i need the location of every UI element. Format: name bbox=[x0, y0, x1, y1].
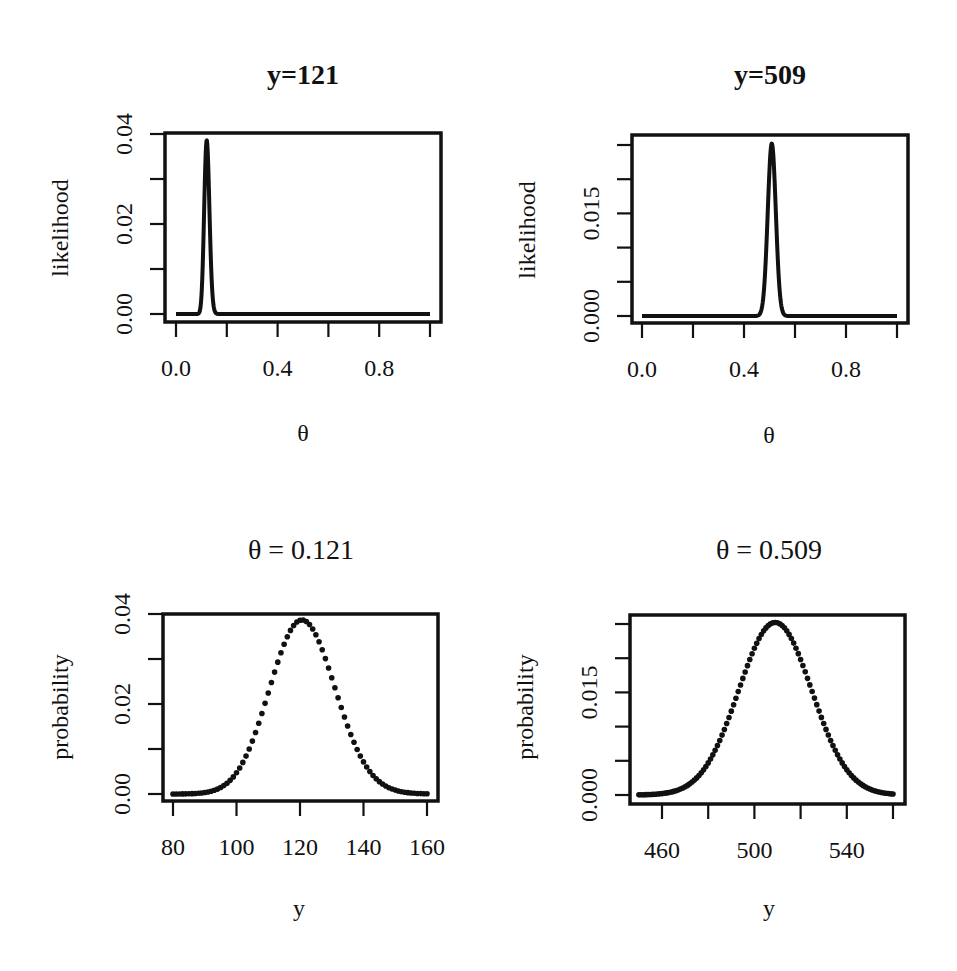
x-tick-label: 120 bbox=[282, 834, 318, 860]
data-point bbox=[278, 650, 284, 656]
y-axis: 0.0000.015 bbox=[578, 145, 632, 343]
x-tick-label: 0.4 bbox=[263, 355, 293, 381]
data-point bbox=[361, 759, 367, 765]
data-point bbox=[740, 676, 746, 682]
data-point bbox=[310, 626, 316, 632]
x-tick-label: 540 bbox=[829, 837, 865, 863]
data-point bbox=[332, 685, 338, 691]
data-point bbox=[354, 747, 360, 753]
x-axis-label: θ bbox=[297, 420, 309, 446]
data-point bbox=[316, 639, 322, 645]
data-series bbox=[636, 620, 896, 798]
data-point bbox=[329, 675, 335, 681]
y-axis-label: likelihood bbox=[514, 181, 540, 278]
plot-frame bbox=[630, 615, 905, 804]
data-point bbox=[281, 641, 287, 647]
data-point bbox=[323, 656, 329, 662]
data-point bbox=[800, 663, 806, 669]
data-series bbox=[176, 140, 430, 314]
x-axis: 80100120140160 bbox=[161, 801, 445, 860]
x-tick-label: 500 bbox=[736, 837, 772, 863]
data-point bbox=[342, 714, 348, 720]
data-point bbox=[731, 702, 737, 708]
data-point bbox=[313, 632, 319, 638]
data-point bbox=[345, 723, 351, 729]
data-point bbox=[812, 695, 818, 701]
data-point bbox=[240, 760, 246, 766]
data-point bbox=[262, 701, 268, 707]
figure: y=121 likelihood θ 0.000.020.040.00.40.8… bbox=[0, 0, 957, 971]
y-tick-label: 0.00 bbox=[111, 293, 137, 335]
x-tick-label: 160 bbox=[409, 834, 445, 860]
data-point bbox=[351, 740, 357, 746]
x-tick-label: 0.0 bbox=[161, 355, 191, 381]
data-series bbox=[642, 144, 897, 316]
data-point bbox=[802, 669, 808, 675]
data-point bbox=[791, 640, 797, 646]
data-point bbox=[814, 702, 820, 708]
y-axis-label: probability bbox=[512, 654, 538, 759]
data-point bbox=[830, 743, 836, 749]
x-tick-label: 0.0 bbox=[627, 356, 657, 382]
x-tick-label: 0.8 bbox=[364, 355, 394, 381]
data-point bbox=[826, 732, 832, 738]
data-point bbox=[724, 721, 730, 727]
data-point bbox=[819, 715, 825, 721]
data-point bbox=[250, 738, 256, 744]
data-point bbox=[338, 705, 344, 711]
y-tick-label: 0.02 bbox=[109, 683, 135, 725]
data-point bbox=[747, 657, 753, 663]
data-point bbox=[319, 647, 325, 653]
y-axis: 0.0000.015 bbox=[576, 624, 630, 822]
likelihood-curve bbox=[642, 144, 897, 316]
y-tick-label: 0.015 bbox=[578, 186, 604, 240]
panel-top-left: y=121 likelihood θ 0.000.020.040.00.40.8 bbox=[47, 59, 441, 446]
x-tick-label: 100 bbox=[219, 834, 255, 860]
data-point bbox=[752, 645, 758, 651]
data-point bbox=[735, 689, 741, 695]
y-axis-label: probability bbox=[47, 654, 73, 759]
data-point bbox=[798, 657, 804, 663]
data-point bbox=[348, 732, 354, 738]
x-axis-label: θ bbox=[763, 422, 775, 448]
data-point bbox=[275, 659, 281, 665]
data-point bbox=[795, 651, 801, 657]
data-point bbox=[742, 669, 748, 675]
data-point bbox=[335, 695, 341, 701]
data-point bbox=[253, 730, 259, 736]
y-tick-label: 0.015 bbox=[576, 665, 602, 719]
y-tick-label: 0.000 bbox=[578, 289, 604, 343]
data-point bbox=[272, 669, 278, 675]
y-tick-label: 0.04 bbox=[111, 113, 137, 155]
data-point bbox=[809, 689, 815, 695]
y-tick-label: 0.04 bbox=[109, 593, 135, 635]
x-axis-label: y bbox=[293, 895, 305, 921]
plot-area: 0.000.020.040.00.40.8 bbox=[111, 113, 441, 381]
plot-area: 0.0000.015460500540 bbox=[576, 615, 905, 863]
data-point bbox=[807, 682, 813, 688]
y-axis: 0.000.020.04 bbox=[109, 593, 163, 815]
data-point bbox=[733, 695, 739, 701]
panel-bottom-right: θ = 0.509 probability y 0.0000.015460500… bbox=[512, 534, 905, 921]
x-axis: 460500540 bbox=[644, 804, 893, 863]
data-point bbox=[793, 645, 799, 651]
data-point bbox=[816, 708, 822, 714]
data-point bbox=[424, 791, 430, 797]
likelihood-curve bbox=[176, 140, 430, 314]
data-point bbox=[717, 738, 723, 744]
data-point bbox=[358, 753, 364, 759]
data-point bbox=[745, 663, 751, 669]
data-point bbox=[712, 748, 718, 754]
data-point bbox=[821, 721, 827, 727]
data-point bbox=[237, 765, 243, 771]
x-axis-label: y bbox=[763, 895, 775, 921]
panel-top-right: y=509 likelihood θ 0.0000.0150.00.40.8 bbox=[514, 59, 908, 448]
data-point bbox=[823, 727, 829, 733]
plot-area: 0.000.020.0480100120140160 bbox=[109, 593, 445, 860]
y-tick-label: 0.00 bbox=[109, 773, 135, 815]
x-tick-label: 460 bbox=[644, 837, 680, 863]
x-axis: 0.00.40.8 bbox=[161, 322, 430, 381]
panel-title: y=121 bbox=[267, 59, 339, 90]
x-tick-label: 0.4 bbox=[729, 356, 759, 382]
x-axis: 0.00.40.8 bbox=[627, 323, 897, 382]
